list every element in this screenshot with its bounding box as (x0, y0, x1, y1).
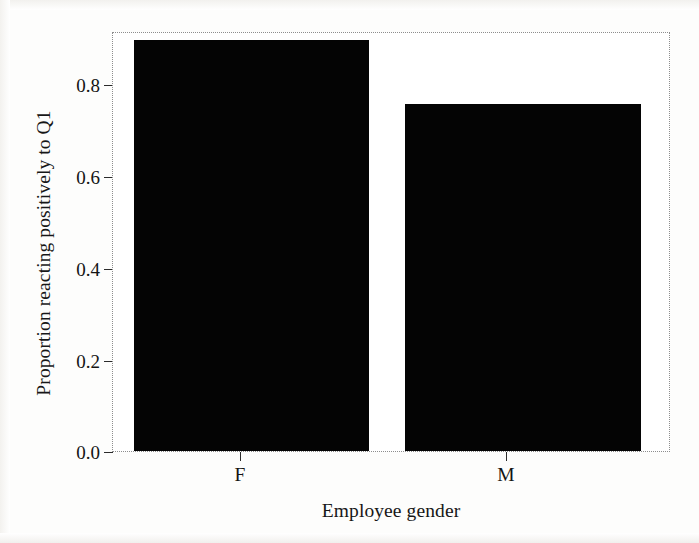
bar-m (405, 104, 641, 451)
bar-chart-figure: Proportion reacting positively to Q1 0.0… (0, 0, 699, 543)
x-tick-mark-1 (506, 452, 507, 461)
page-edge-shade-left (0, 0, 10, 543)
page-edge-shade-bottom (0, 533, 699, 543)
x-axis-title: Employee gender (112, 500, 670, 522)
y-tick-mark-0 (104, 452, 113, 453)
x-tick-label-m: M (476, 464, 536, 486)
x-tick-mark-0 (240, 452, 241, 461)
y-tick-label-0: 0.0 (38, 442, 100, 464)
x-tick-label-f: F (210, 464, 270, 486)
y-tick-label-2: 0.4 (38, 259, 100, 281)
y-tick-label-4: 0.8 (38, 75, 100, 97)
y-tick-label-3: 0.6 (38, 167, 100, 189)
page-edge-shade-top (0, 0, 699, 10)
plot-area (113, 33, 669, 451)
y-axis-title: Proportion reacting positively to Q1 (33, 43, 55, 463)
plot-frame (112, 32, 670, 452)
y-tick-label-1: 0.2 (38, 351, 100, 373)
bar-f (134, 40, 369, 451)
